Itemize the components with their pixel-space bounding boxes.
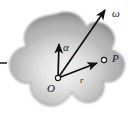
point-P-label: P	[112, 53, 119, 64]
point-O-label: O	[47, 83, 55, 94]
rigid-body-vector-figure: ω α r P O	[0, 0, 131, 132]
point-O-marker	[55, 75, 60, 80]
vector-alpha-label: α	[63, 42, 69, 53]
figure-canvas	[0, 0, 131, 132]
vector-omega-label: ω	[112, 8, 120, 19]
rigid-body-blob	[10, 12, 124, 105]
vector-alpha	[58, 44, 59, 78]
point-P-marker	[101, 57, 106, 62]
vector-r-label: r	[80, 76, 84, 85]
